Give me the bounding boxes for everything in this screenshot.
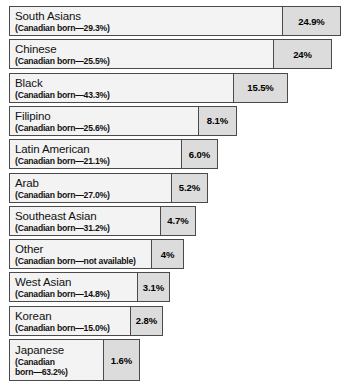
group-name: Filipino [15,110,194,123]
bar-value-box: 4.7% [160,207,195,235]
bar-value-box: 6.0% [181,140,217,168]
group-name: Black [15,77,229,90]
group-canadian-born: (Canadian born—43.3%) [15,90,229,100]
bar-row: Black(Canadian born—43.3%)15.5% [9,73,288,103]
bar-label: Latin American(Canadian born—21.1%) [10,140,181,168]
bar-label: Arab(Canadian born—27.0%) [10,174,171,202]
bar-value-box: 4% [151,240,183,268]
bar-value-box: 3.1% [137,273,169,301]
group-canadian-born: (Canadian born—27.0%) [15,190,167,200]
bar-row: South Asians(Canadian born—29.3%)24.9% [9,6,341,36]
bar-label: Korean(Canadian born—15.0%) [10,307,130,335]
group-name: Chinese [15,43,269,56]
group-name: Korean [15,310,126,323]
bar-value-label: 2.8% [136,315,157,326]
bar-value-label: 4% [161,249,175,260]
bar-value-label: 3.1% [143,282,164,293]
group-name: Japanese [15,344,99,357]
bar-row: West Asian(Canadian born—14.8%)3.1% [9,272,170,302]
bar-label: Chinese(Canadian born—25.5%) [10,40,273,68]
group-name: Arab [15,177,167,190]
bar-value-box: 5.2% [171,174,207,202]
group-canadian-born: (Canadian born—25.5%) [15,56,269,66]
bar-row: Other(Canadian born—not available)4% [9,239,184,269]
bar-row: Latin American(Canadian born—21.1%)6.0% [9,139,218,169]
bar-label: Japanese(Canadian born—63.2%) [10,340,103,380]
bar-value-box: 2.8% [130,307,162,335]
bar-label: Other(Canadian born—not available) [10,240,151,268]
bar-value-label: 24% [293,49,312,60]
bar-label: Black(Canadian born—43.3%) [10,74,233,102]
group-canadian-born: (Canadian born—not available) [15,256,147,266]
bar-label: South Asians(Canadian born—29.3%) [10,7,282,35]
bar-value-label: 4.7% [167,215,188,226]
bar-row: Chinese(Canadian born—25.5%)24% [9,39,332,69]
group-canadian-born: (Canadian born—25.6%) [15,123,194,133]
group-canadian-born: (Canadian born—29.3%) [15,23,278,33]
bar-label: West Asian(Canadian born—14.8%) [10,273,137,301]
group-name: South Asians [15,10,278,23]
bar-label: Southeast Asian(Canadian born—31.2%) [10,207,160,235]
horizontal-bar-chart: South Asians(Canadian born—29.3%)24.9%Ch… [0,0,348,386]
bar-value-box: 15.5% [233,74,287,102]
group-name: West Asian [15,276,133,289]
bar-value-label: 8.1% [207,115,228,126]
bar-row: Japanese(Canadian born—63.2%)1.6% [9,339,140,381]
group-canadian-born: (Canadian born—31.2%) [15,223,156,233]
bar-row: Filipino(Canadian born—25.6%)8.1% [9,106,237,136]
group-name: Latin American [15,143,177,156]
group-canadian-born: (Canadian born—14.8%) [15,289,133,299]
group-name: Other [15,243,147,256]
bar-value-label: 5.2% [179,182,200,193]
bar-value-label: 1.6% [111,355,132,366]
bar-value-label: 24.9% [298,16,324,27]
group-canadian-born: (Canadian born—63.2%) [15,357,99,377]
bar-value-box: 24.9% [282,7,340,35]
bar-label: Filipino(Canadian born—25.6%) [10,107,198,135]
group-name: Southeast Asian [15,210,156,223]
group-canadian-born: (Canadian born—15.0%) [15,323,126,333]
bar-row: Southeast Asian(Canadian born—31.2%)4.7% [9,206,196,236]
bar-value-box: 8.1% [198,107,236,135]
bar-value-label: 6.0% [189,149,210,160]
bar-row: Korean(Canadian born—15.0%)2.8% [9,306,163,336]
bar-row: Arab(Canadian born—27.0%)5.2% [9,173,208,203]
bar-value-label: 15.5% [247,82,273,93]
bar-value-box: 24% [273,40,331,68]
group-canadian-born: (Canadian born—21.1%) [15,156,177,166]
bar-value-box: 1.6% [103,340,139,380]
